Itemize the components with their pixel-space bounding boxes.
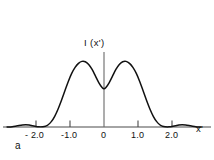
figure-panel-a: I (x') x' - 2.0 -1.0 0 1.0 2.0 a [0,0,214,160]
x-tick-label-neg1: -1.0 [61,131,77,140]
x-tick-label-pos1: 1.0 [131,131,144,140]
x-axis-label: x' [196,124,203,134]
x-tick-label-pos2: 2.0 [165,131,178,140]
panel-label: a [15,141,21,151]
x-tick-label-zero: 0 [101,131,106,140]
x-tick-label-neg2: - 2.0 [25,131,44,140]
y-axis-label: I (x') [84,38,105,48]
